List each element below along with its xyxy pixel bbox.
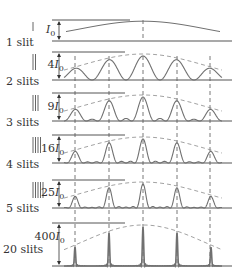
peak-intensity-label: I0: [46, 23, 55, 38]
arrow-down-icon: [57, 36, 61, 40]
arrow-up-icon: [57, 94, 61, 98]
slit-count-label: 4 slits: [6, 158, 39, 171]
arrow-up-icon: [57, 181, 61, 185]
intensity-subscript: 0: [59, 64, 64, 73]
slit-count-label: 2 slits: [6, 75, 39, 88]
peak-intensity-label: 4I0: [48, 58, 64, 73]
slit-count-label: 3 slits: [6, 116, 39, 129]
slit-count-label: 1 slit: [6, 36, 34, 49]
intensity-subscript: 0: [59, 192, 64, 201]
peak-intensity-label: 16I0: [41, 142, 64, 157]
arrow-down-icon: [57, 75, 61, 79]
intensity-coefficient: 16: [41, 142, 55, 155]
arrow-up-icon: [57, 136, 61, 140]
slit-count-label: 5 slits: [6, 202, 39, 215]
intensity-subscript: 0: [60, 236, 65, 245]
arrow-down-icon: [57, 203, 61, 207]
intensity-subscript: 0: [50, 29, 55, 38]
arrow-down-icon: [57, 158, 61, 162]
intensity-subscript: 0: [59, 106, 64, 115]
arrow-up-icon: [57, 224, 61, 228]
peak-intensity-label: 25I0: [41, 186, 64, 201]
arrow-up-icon: [57, 53, 61, 57]
peak-intensity-label: 9I0: [48, 100, 64, 115]
intensity-coefficient: 25: [41, 186, 55, 199]
arrow-up-icon: [57, 21, 61, 25]
arrow-down-icon: [57, 116, 61, 120]
intensity-subscript: 0: [59, 148, 64, 157]
arrow-down-icon: [57, 261, 61, 265]
peak-intensity-label: 400I0: [35, 230, 65, 245]
intensity-coefficient: 9: [48, 100, 55, 113]
intensity-coefficient: 400: [35, 230, 56, 243]
intensity-coefficient: 4: [48, 58, 55, 71]
